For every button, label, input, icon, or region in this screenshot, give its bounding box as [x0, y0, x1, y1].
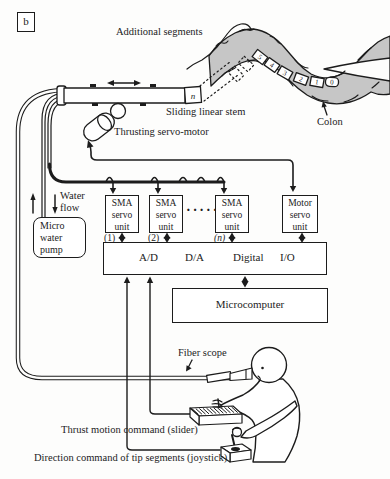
pump-line3: pump	[40, 244, 85, 256]
joystick-cmd-arrowhead	[124, 277, 130, 284]
interface-ad: A/D	[139, 251, 158, 263]
water-flow-line2: flow	[60, 202, 85, 214]
motor-servo-unit-box: Motor servo unit	[282, 195, 318, 233]
motor-servo-arrowhead	[290, 186, 296, 192]
stem-segment-label: n	[191, 91, 196, 101]
sliding-linear-stem-label: Sliding linear stem	[166, 106, 245, 118]
sma1-line3: unit	[106, 221, 138, 233]
sma1-line1: SMA	[106, 197, 138, 209]
water-flow-label: Water flow	[60, 190, 85, 214]
colon-label: Colon	[317, 116, 343, 128]
water-flow-arrows	[33, 195, 55, 213]
figure-diagram: 5 4 3 2 1 0	[0, 0, 390, 479]
sma2-line1: SMA	[150, 197, 182, 209]
interface-digital: Digital	[233, 251, 264, 263]
colon-pointer	[324, 106, 327, 115]
interface-da: D/A	[185, 251, 204, 263]
sma-servo-unit-n-box: SMA servo unit	[215, 195, 249, 233]
sliding-linear-stem-shape: n	[57, 80, 202, 106]
panel-label: b	[17, 12, 35, 32]
motor-line2: servo	[283, 209, 317, 221]
interface-io: I/O	[280, 251, 295, 263]
water-flow-line1: Water	[60, 190, 85, 202]
sma2-line3: unit	[150, 221, 182, 233]
motor-line3: unit	[283, 221, 317, 233]
slider-cmd-arrowhead	[147, 277, 153, 284]
additional-segments-label: Additional segments	[116, 26, 203, 38]
thrusting-servo-motor-label: Thrusting servo-motor	[114, 126, 209, 138]
thrusting-servo-motor-shape	[80, 104, 125, 145]
microcomputer-box: Microcomputer	[172, 288, 328, 323]
sma2-line2: servo	[150, 209, 182, 221]
sman-line2: servo	[216, 209, 248, 221]
fiber-scope-label: Fiber scope	[178, 347, 227, 359]
sma-servo-unit-1-box: SMA servo unit	[105, 195, 139, 233]
direction-command-label: Direction command of tip segments (joyst…	[34, 452, 227, 464]
sma-wire-arrowheads	[110, 188, 227, 194]
thrust-command-label: Thrust motion command (slider)	[61, 424, 198, 436]
micro-water-pump-box: Micro water pump	[33, 217, 86, 258]
pump-line2: water	[40, 232, 85, 244]
sma-servo-unit-2-box: SMA servo unit	[149, 195, 183, 233]
colon-shape	[209, 29, 390, 104]
sma1-line2: servo	[106, 209, 138, 221]
operator-head	[252, 348, 287, 383]
sman-line1: SMA	[216, 197, 248, 209]
eyepiece	[230, 368, 252, 381]
scope-connector	[207, 372, 232, 383]
operator-eye	[261, 367, 264, 370]
water-down-arrowhead	[52, 207, 57, 214]
pump-line1: Micro	[40, 220, 85, 232]
motor-line1: Motor	[283, 197, 317, 209]
interface-box: A/D D/A Digital I/O	[103, 242, 327, 275]
sman-line3: unit	[216, 221, 248, 233]
water-up-arrowhead	[30, 193, 35, 200]
